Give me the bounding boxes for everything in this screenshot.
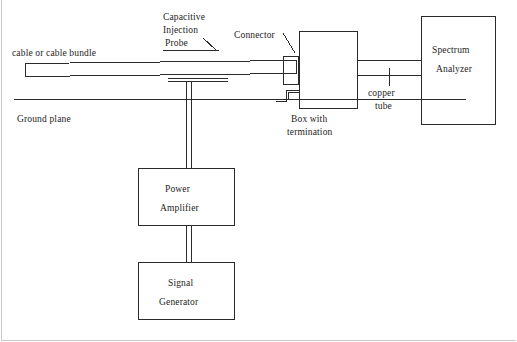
capacitive-injection-probe-shape	[168, 79, 228, 169]
copper-tube-label-line1: copper	[368, 87, 395, 100]
box-with-termination-label-line2: termination	[287, 126, 332, 139]
power-amplifier-shape	[139, 169, 235, 226]
box-with-termination-label-line1: Box with	[291, 113, 327, 126]
diagram-canvas: cable or cable bundle Capacitive Injecti…	[0, 0, 517, 342]
spectrum-analyzer-label-line1: Spectrum	[432, 44, 470, 57]
connector-label: Connector	[234, 29, 275, 42]
capacitive-probe-label-line3: Probe	[165, 37, 188, 50]
copper-tube-label-line2: tube	[375, 100, 392, 113]
amp-to-generator-link	[187, 226, 192, 262]
cable-shape	[26, 61, 297, 77]
spectrum-analyzer-label-line2: Analyzer	[436, 63, 472, 76]
power-amplifier-label-line2: Amplifier	[160, 202, 199, 215]
cable-label: cable or cable bundle	[12, 47, 96, 60]
connector-leader-line	[283, 33, 295, 53]
signal-generator-label-line2: Generator	[159, 296, 198, 309]
power-amplifier-label-line1: Power	[165, 183, 190, 196]
capacitive-probe-label-line1: Capacitive	[163, 11, 205, 24]
signal-generator-shape	[139, 263, 235, 320]
box-with-termination-shape	[300, 32, 358, 109]
ground-plane-label: Ground plane	[17, 113, 71, 126]
signal-generator-label-line1: Signal	[168, 277, 193, 290]
capacitive-probe-label-line2: Injection	[163, 24, 198, 37]
